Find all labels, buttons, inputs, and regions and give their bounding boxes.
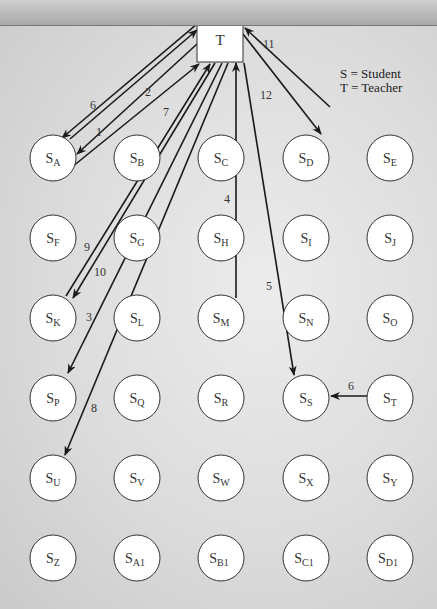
student-node-b: SB <box>114 135 160 181</box>
interaction-order-label: 3 <box>86 310 92 324</box>
interaction-arrow <box>243 34 321 134</box>
student-node-c1: SC1 <box>283 535 329 581</box>
student-node-f: SF <box>30 215 76 261</box>
student-node-r: SR <box>198 375 244 421</box>
student-node-o: SO <box>367 295 413 341</box>
interaction-order-label: 1 <box>96 125 102 139</box>
legend-teacher: T = Teacher <box>340 80 403 95</box>
diagram-stage: SASBSCSDSESFSGSHSISJSKSLSMSNSOSPSQSRSSST… <box>0 0 437 609</box>
student-node-s: SS <box>283 375 329 421</box>
classroom-interaction-diagram: SASBSCSDSESFSGSHSISJSKSLSMSNSOSPSQSRSSST… <box>0 26 437 609</box>
student-node-z: SZ <box>30 535 76 581</box>
interaction-order-label: 12 <box>260 88 272 102</box>
student-node-k: SK <box>30 295 76 341</box>
interaction-order-label: 11 <box>263 37 275 51</box>
interaction-order-label: 4 <box>224 192 230 206</box>
interaction-order-label: 9 <box>84 240 90 254</box>
interaction-svg: SASBSCSDSESFSGSHSISJSKSLSMSNSOSPSQSRSSST… <box>0 26 437 609</box>
top-border-strip <box>0 0 437 26</box>
student-node-q: SQ <box>114 375 160 421</box>
interaction-order-label: 8 <box>91 401 97 415</box>
student-node-x: SX <box>283 455 329 501</box>
student-node-b1: SB1 <box>198 535 244 581</box>
student-node-n: SN <box>283 295 329 341</box>
interaction-arrow <box>245 28 330 107</box>
student-node-u: SU <box>30 455 76 501</box>
interaction-order-label: 10 <box>94 265 106 279</box>
legend: S = Student T = Teacher <box>340 66 403 95</box>
student-node-j: SJ <box>367 215 413 261</box>
legend-student: S = Student <box>340 66 401 81</box>
student-node-v: SV <box>114 455 160 501</box>
student-node-a: SA <box>30 135 76 181</box>
teacher-node: T <box>197 26 243 62</box>
student-node-p: SP <box>30 375 76 421</box>
interaction-order-label: 5 <box>266 279 272 293</box>
interaction-order-label: 6 <box>348 379 354 393</box>
student-node-l: SL <box>114 295 160 341</box>
student-node-a1: SA1 <box>114 535 160 581</box>
student-node-g: SG <box>114 215 160 261</box>
student-node-h: SH <box>198 215 244 261</box>
interaction-order-label: 6 <box>90 98 96 112</box>
interaction-arrow <box>70 30 197 139</box>
student-node-e: SE <box>367 135 413 181</box>
interaction-order-label: 2 <box>145 85 151 99</box>
student-node-y: SY <box>367 455 413 501</box>
teacher-label: T <box>215 32 224 48</box>
student-node-t: ST <box>367 375 413 421</box>
interaction-order-label: 7 <box>163 105 169 119</box>
student-node-w: SW <box>198 455 244 501</box>
student-node-i: SI <box>283 215 329 261</box>
student-node-c: SC <box>198 135 244 181</box>
student-node-m: SM <box>198 295 244 341</box>
student-node-d: SD <box>283 135 329 181</box>
student-node-d1: SD1 <box>367 535 413 581</box>
student-nodes: SASBSCSDSESFSGSHSISJSKSLSMSNSOSPSQSRSSST… <box>30 135 413 581</box>
